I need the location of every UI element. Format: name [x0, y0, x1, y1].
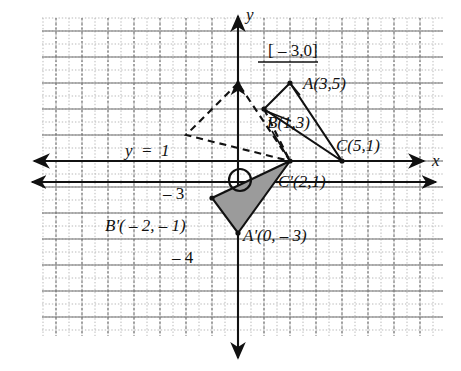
coordinate-plane-svg: [ – 3,0] y = 1 – 3 – 4 A(3,5) B(1,3) C(5…: [0, 0, 461, 371]
axis-label-x: x: [431, 151, 440, 170]
label-point-B: B(1,3): [267, 113, 310, 132]
vertex-dot-B: [261, 106, 266, 111]
label-tick-neg4: – 4: [171, 248, 194, 267]
grid-major-layer: [42, 18, 443, 336]
axis-label-y: y: [244, 5, 254, 24]
label-line-y-equals-1: y = 1: [123, 141, 170, 160]
label-point-C-prime: C'(2,1): [278, 172, 326, 191]
vertex-dot-Ap: [235, 230, 240, 235]
diagram-canvas: [ – 3,0] y = 1 – 3 – 4 A(3,5) B(1,3) C(5…: [0, 0, 461, 371]
grid-minor-layer: [42, 18, 443, 336]
label-tick-neg3: – 3: [162, 184, 184, 203]
vertex-dot-C: [339, 158, 344, 163]
label-point-A-prime: A'(0, – 3): [242, 226, 307, 245]
vertex-dot-Bp: [209, 195, 214, 200]
label-point-C: C(5,1): [336, 136, 380, 155]
label-translation-vector: [ – 3,0]: [268, 41, 318, 60]
label-point-B-prime: B'( – 2, – 1): [105, 216, 186, 235]
label-point-A: A(3,5): [302, 74, 346, 93]
